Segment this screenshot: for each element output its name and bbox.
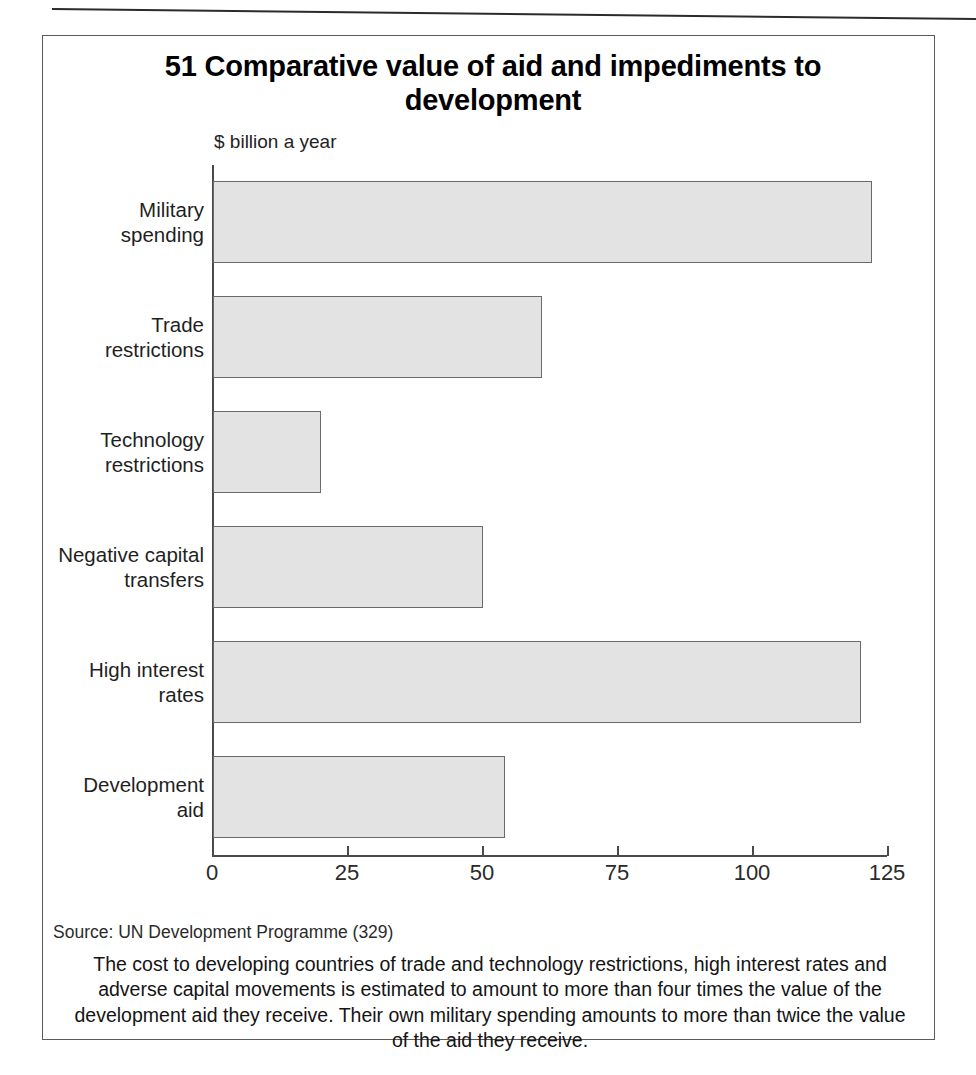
bar-4 — [213, 526, 483, 608]
bar-track — [213, 411, 888, 493]
tick-label: 100 — [734, 860, 771, 886]
tick-label: 125 — [869, 860, 906, 886]
bar-2 — [213, 296, 542, 378]
tick-mark — [347, 846, 349, 856]
tick-label: 0 — [206, 860, 218, 886]
bar-track — [213, 641, 888, 723]
bar-1 — [213, 181, 872, 263]
category-label-4: Negative capitaltransfers — [13, 543, 213, 591]
tick-mark — [752, 846, 754, 856]
tick-label: 75 — [605, 860, 629, 886]
tick-mark — [617, 846, 619, 856]
source-note: Source: UN Development Programme (329) — [53, 922, 393, 943]
figure-title: 51 Comparative value of aid and impedime… — [103, 50, 883, 117]
bar-row: Developmentaid — [43, 740, 936, 855]
bar-track — [213, 756, 888, 838]
category-label-6: Developmentaid — [13, 773, 213, 821]
x-axis-ticks: 0255075100125 — [212, 855, 887, 903]
figure-caption: The cost to developing countries of trad… — [65, 952, 915, 1053]
tick-mark — [482, 846, 484, 856]
figure-frame: 51 Comparative value of aid and impedime… — [42, 35, 935, 1040]
tick-label: 50 — [470, 860, 494, 886]
tick-mark — [212, 846, 214, 856]
chart-plot-area: $ billion a year MilitaryspendingTradere… — [43, 131, 936, 876]
bar-6 — [213, 756, 505, 838]
x-axis-unit-label: $ billion a year — [214, 131, 337, 153]
bar-row: Militaryspending — [43, 165, 936, 280]
bar-row: Technologyrestrictions — [43, 395, 936, 510]
category-label-1: Militaryspending — [13, 198, 213, 246]
page-header-rule — [52, 8, 976, 22]
tick-label: 25 — [335, 860, 359, 886]
category-label-2: Traderestrictions — [13, 313, 213, 361]
bar-rows: MilitaryspendingTraderestrictionsTechnol… — [43, 165, 936, 855]
category-label-3: Technologyrestrictions — [13, 428, 213, 476]
bar-row: Negative capitaltransfers — [43, 510, 936, 625]
bar-5 — [213, 641, 861, 723]
bar-track — [213, 296, 888, 378]
bar-3 — [213, 411, 321, 493]
bar-row: High interestrates — [43, 625, 936, 740]
bar-track — [213, 526, 888, 608]
bar-row: Traderestrictions — [43, 280, 936, 395]
bar-track — [213, 181, 888, 263]
category-label-5: High interestrates — [13, 658, 213, 706]
chart-body: MilitaryspendingTraderestrictionsTechnol… — [43, 159, 936, 876]
tick-mark — [887, 846, 889, 856]
